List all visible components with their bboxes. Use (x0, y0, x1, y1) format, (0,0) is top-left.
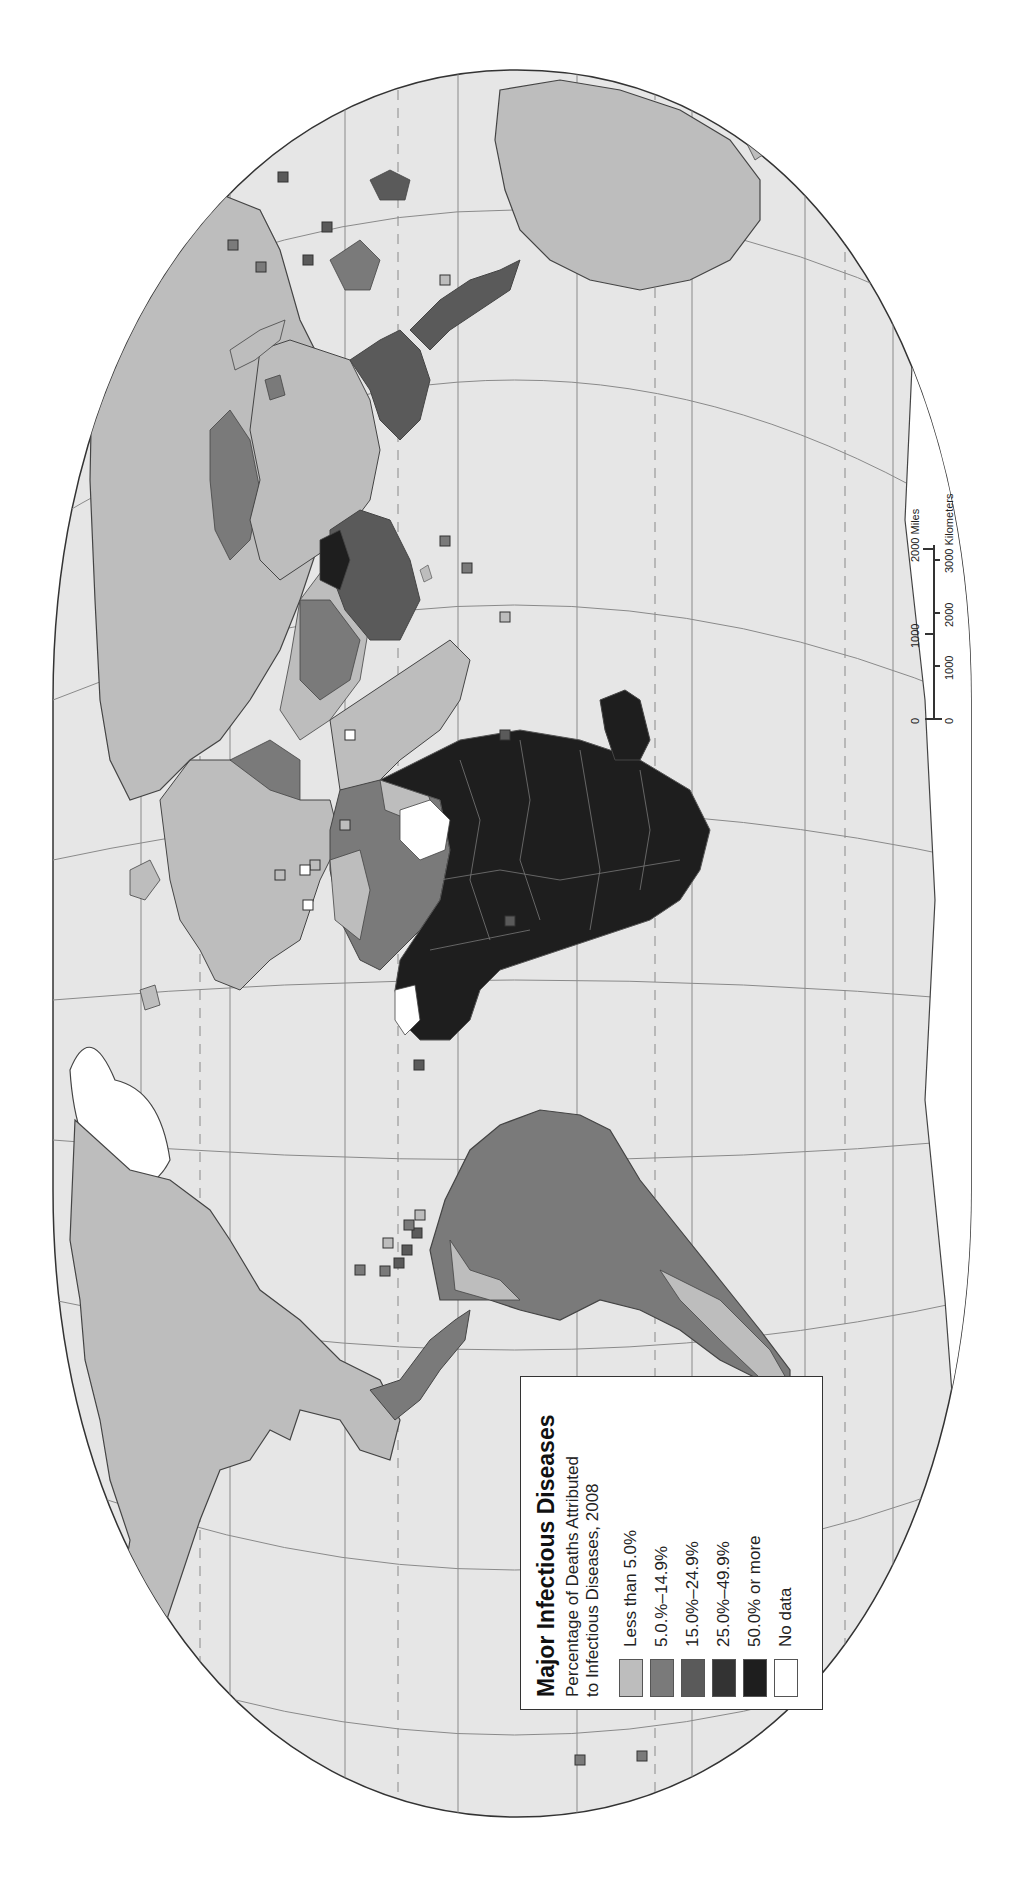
legend-swatch (712, 1659, 736, 1697)
world-choropleth-map (0, 0, 1012, 1883)
scale-tick (933, 666, 940, 668)
legend-item: No data (770, 1387, 801, 1697)
legend-swatch (743, 1659, 767, 1697)
map-legend: Major Infectious Diseases Percentage of … (520, 1376, 823, 1710)
legend-items: Less than 5.0% 5.0.%–14.9% 15.0%–24.9% 2… (615, 1387, 801, 1697)
legend-swatch (774, 1659, 798, 1697)
legend-subtitle-line1: Percentage of Deaths Attributed (563, 1387, 583, 1697)
legend-label: Less than 5.0% (621, 1530, 641, 1647)
legend-item: 50.0% or more (739, 1387, 770, 1697)
legend-swatch (681, 1659, 705, 1697)
scale-km-0: 0 (943, 718, 955, 724)
legend-label: 5.0.%–14.9% (652, 1546, 672, 1647)
legend-item: 25.0%–49.9% (708, 1387, 739, 1697)
legend-title: Major Infectious Diseases (533, 1387, 559, 1697)
scale-km-1000: 1000 (943, 656, 955, 680)
scale-km-2000: 2000 (943, 603, 955, 627)
scale-tick (933, 613, 940, 615)
legend-subtitle: Percentage of Deaths Attributed to Infec… (563, 1387, 603, 1697)
legend-item: 5.0.%–14.9% (646, 1387, 677, 1697)
legend-item: 15.0%–24.9% (677, 1387, 708, 1697)
scale-miles-0: 0 (909, 718, 921, 724)
scale-miles-1000: 1000 (909, 624, 921, 648)
legend-swatch (650, 1659, 674, 1697)
legend-swatch (619, 1659, 643, 1697)
legend-label: 15.0%–24.9% (683, 1541, 703, 1647)
legend-label: 50.0% or more (745, 1536, 765, 1648)
legend-item: Less than 5.0% (615, 1387, 646, 1697)
scale-tick (923, 549, 934, 551)
legend-label: No data (776, 1587, 796, 1647)
legend-label: 25.0%–49.9% (714, 1541, 734, 1647)
scale-bar-line (933, 545, 935, 720)
scale-tick (933, 719, 942, 721)
scale-tick (933, 560, 940, 562)
scale-km-unit: 3000 Kilometers (943, 494, 955, 574)
scale-miles-unit: 2000 Miles (909, 509, 921, 562)
legend-subtitle-line2: to Infectious Diseases, 2008 (583, 1387, 603, 1697)
scale-tick (925, 634, 934, 636)
scale-bar: 0 1000 2000 Miles 0 1000 2000 3000 Kilom… (895, 440, 975, 730)
